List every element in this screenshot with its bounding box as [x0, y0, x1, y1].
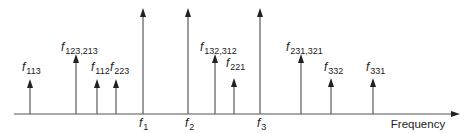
up-arrowhead-icon	[94, 79, 100, 88]
label-f123_213: f123,213	[61, 40, 98, 56]
up-arrowhead-icon	[257, 8, 263, 17]
label-f3: f3	[257, 116, 266, 132]
label-f331: f331	[366, 60, 385, 76]
spectral-line-f332	[328, 78, 334, 114]
spectral-line-f1	[140, 8, 146, 114]
spectral-line-f231_321	[298, 54, 304, 114]
label-f231_321: f231,321	[286, 40, 323, 56]
spectral-line-f3	[257, 8, 263, 114]
label-f2: f2	[185, 116, 194, 132]
label-f221: f221	[226, 56, 245, 72]
intermodulation-spectrum-diagram: f113f123,213f112f223f1f2f132,312f221f3f2…	[0, 0, 468, 133]
frequency-axis	[14, 111, 460, 117]
spectral-line-f132_312	[212, 54, 218, 114]
spectral-line-f331	[370, 78, 376, 114]
label-f113: f113	[22, 60, 41, 76]
spectral-line-f123_213	[73, 54, 79, 114]
axis-arrowhead-icon	[451, 111, 460, 117]
up-arrowhead-icon	[231, 78, 237, 87]
frequency-axis-label: Frequency	[391, 118, 446, 130]
label-f132_312: f132,312	[200, 40, 237, 56]
up-arrowhead-icon	[370, 78, 376, 87]
label-f1: f1	[139, 116, 148, 132]
spectral-line-f2	[185, 8, 191, 114]
up-arrowhead-icon	[328, 78, 334, 87]
label-f332: f332	[324, 60, 343, 76]
spectral-line-f112	[94, 79, 100, 114]
spectrum-plot: f113f123,213f112f223f1f2f132,312f221f3f2…	[0, 0, 468, 133]
up-arrowhead-icon	[113, 79, 119, 88]
up-arrowhead-icon	[140, 8, 146, 17]
spectral-line-f221	[231, 78, 237, 114]
up-arrowhead-icon	[27, 79, 33, 88]
up-arrowhead-icon	[185, 8, 191, 17]
spectral-line-f223	[113, 79, 119, 114]
label-f112: f112	[91, 60, 110, 76]
label-f223: f223	[110, 60, 129, 76]
spectral-line-f113	[27, 79, 33, 114]
